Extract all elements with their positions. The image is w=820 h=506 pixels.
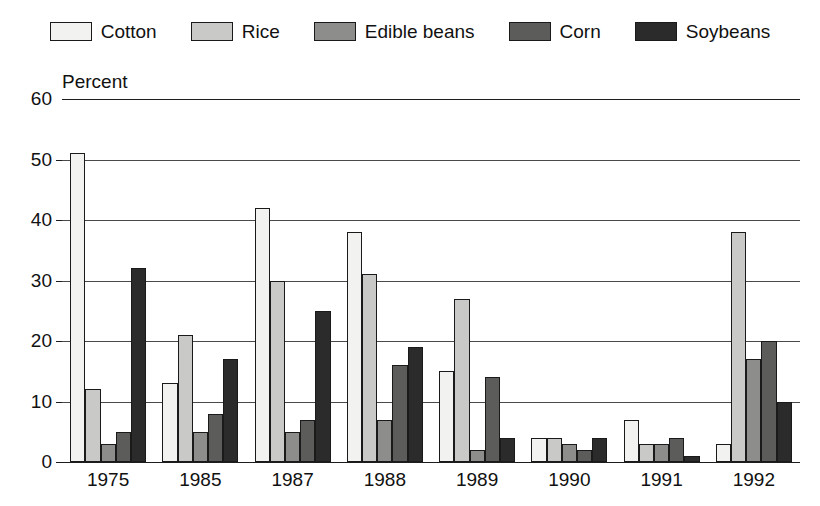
bar bbox=[85, 389, 100, 462]
bar bbox=[577, 450, 592, 462]
y-tick-mark bbox=[56, 341, 62, 342]
y-tick-mark bbox=[56, 402, 62, 403]
bar bbox=[746, 359, 761, 462]
bar-chart: Percent 0102030405060 197519851987198819… bbox=[0, 72, 820, 506]
x-tick-label: 1985 bbox=[179, 470, 221, 489]
bar bbox=[439, 371, 454, 462]
legend-label: Cotton bbox=[101, 22, 157, 41]
bar bbox=[761, 341, 776, 462]
x-axis-tick-labels: 19751985198719881989199019911992 bbox=[62, 464, 800, 504]
legend-swatch-icon bbox=[314, 22, 356, 41]
bar bbox=[624, 420, 639, 462]
bar bbox=[70, 153, 85, 462]
y-tick-label: 20 bbox=[31, 331, 52, 350]
bar bbox=[562, 444, 577, 462]
chart-legend: CottonRiceEdible beansCornSoybeans bbox=[0, 22, 820, 41]
legend-entry: Corn bbox=[509, 22, 601, 41]
bar bbox=[315, 311, 330, 462]
bar bbox=[500, 438, 515, 462]
legend-swatch-icon bbox=[50, 22, 92, 41]
bar bbox=[377, 420, 392, 462]
bar bbox=[223, 359, 238, 462]
x-tick-label: 1991 bbox=[640, 470, 682, 489]
y-axis-title: Percent bbox=[62, 72, 127, 91]
y-tick-mark bbox=[56, 462, 62, 463]
y-tick-label: 60 bbox=[31, 89, 52, 108]
legend-entry: Cotton bbox=[50, 22, 157, 41]
y-tick-mark bbox=[56, 281, 62, 282]
bar bbox=[547, 438, 562, 462]
bar bbox=[300, 420, 315, 462]
legend-entry: Rice bbox=[191, 22, 280, 41]
bar bbox=[592, 438, 607, 462]
y-axis-tick-labels: 0102030405060 bbox=[0, 99, 52, 462]
bar bbox=[131, 268, 146, 462]
bar bbox=[408, 347, 423, 462]
bar bbox=[178, 335, 193, 462]
legend-label: Corn bbox=[560, 22, 601, 41]
plot-area bbox=[62, 99, 800, 462]
bar bbox=[684, 456, 699, 462]
y-tick-label: 10 bbox=[31, 392, 52, 411]
bar bbox=[362, 274, 377, 462]
y-tick-label: 0 bbox=[41, 452, 52, 471]
x-tick-label: 1989 bbox=[456, 470, 498, 489]
y-tick-mark bbox=[56, 160, 62, 161]
bar bbox=[285, 432, 300, 462]
bar bbox=[208, 414, 223, 462]
bar bbox=[531, 438, 546, 462]
bar bbox=[347, 232, 362, 462]
bar bbox=[255, 208, 270, 462]
bar bbox=[716, 444, 731, 462]
x-tick-label: 1975 bbox=[87, 470, 129, 489]
y-tick-label: 30 bbox=[31, 271, 52, 290]
x-tick-label: 1987 bbox=[271, 470, 313, 489]
legend-swatch-icon bbox=[509, 22, 551, 41]
bar bbox=[162, 383, 177, 462]
x-tick-label: 1988 bbox=[364, 470, 406, 489]
bar bbox=[777, 402, 792, 463]
bar bbox=[116, 432, 131, 462]
bar bbox=[270, 281, 285, 463]
bar bbox=[193, 432, 208, 462]
x-tick-label: 1990 bbox=[548, 470, 590, 489]
bars-layer bbox=[62, 99, 800, 462]
bar bbox=[654, 444, 669, 462]
bar bbox=[454, 299, 469, 462]
legend-swatch-icon bbox=[635, 22, 677, 41]
bar bbox=[669, 438, 684, 462]
legend-entry: Edible beans bbox=[314, 22, 475, 41]
x-tick-label: 1992 bbox=[733, 470, 775, 489]
bar bbox=[470, 450, 485, 462]
bar bbox=[731, 232, 746, 462]
y-tick-label: 50 bbox=[31, 150, 52, 169]
legend-label: Rice bbox=[242, 22, 280, 41]
bar bbox=[392, 365, 407, 462]
legend-label: Edible beans bbox=[365, 22, 475, 41]
y-tick-label: 40 bbox=[31, 210, 52, 229]
gridline bbox=[62, 462, 800, 463]
bar bbox=[639, 444, 654, 462]
legend-swatch-icon bbox=[191, 22, 233, 41]
y-tick-mark bbox=[56, 220, 62, 221]
bar bbox=[485, 377, 500, 462]
bar bbox=[101, 444, 116, 462]
legend-entry: Soybeans bbox=[635, 22, 771, 41]
legend-label: Soybeans bbox=[686, 22, 771, 41]
